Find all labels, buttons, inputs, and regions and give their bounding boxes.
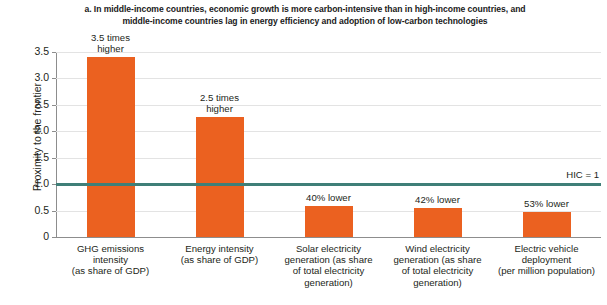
chart-title-line-2: middle-income countries lag in energy ef… <box>40 16 570 28</box>
y-axis-tick-label: 0.5 <box>34 204 49 216</box>
x-axis-category-label-line: generation (as share <box>271 254 387 265</box>
y-axis-tick-label: 0 <box>43 230 49 242</box>
bar[interactable] <box>87 57 135 237</box>
x-axis-category-label-line: (as share of GDP) <box>53 265 169 276</box>
x-axis-category-label-line: Energy intensity <box>162 243 278 254</box>
x-axis-category-label: Wind electricitygeneration (as shareof t… <box>380 243 496 288</box>
y-axis-tick-mark <box>52 158 56 159</box>
plot-area: 00.51.01.52.02.53.03.53.5 timeshigher2.5… <box>56 52 601 237</box>
x-axis-category-label-line: deployment <box>489 254 605 265</box>
bar[interactable] <box>523 212 571 237</box>
bar-value-annotation-line: 2.5 times <box>160 92 280 103</box>
gridline <box>56 131 601 132</box>
x-axis-category-label: GHG emissionsintensity(as share of GDP) <box>53 243 169 277</box>
x-axis-category-label-line: GHG emissions <box>53 243 169 254</box>
y-axis-tick-mark <box>52 237 56 238</box>
x-axis-category-label: Solar electricitygeneration (as shareof … <box>271 243 387 288</box>
y-axis-tick-label: 3.5 <box>34 45 49 57</box>
y-axis-tick-mark <box>52 78 56 79</box>
bar-value-annotation: 2.5 timeshigher <box>160 92 280 114</box>
y-axis-tick-mark <box>52 131 56 132</box>
x-axis-category-label-line: Solar electricity <box>271 243 387 254</box>
x-axis-category-label-line: generation) <box>271 277 387 288</box>
x-axis-category-label-line: (per million population) <box>489 265 605 276</box>
bar-value-annotation: 40% lower <box>269 192 389 203</box>
bar-value-annotation-line: higher <box>160 103 280 114</box>
x-axis-category-label-line: Wind electricity <box>380 243 496 254</box>
y-axis-tick-mark <box>52 211 56 212</box>
bar[interactable] <box>196 117 244 237</box>
bar-value-annotation: 3.5 timeshigher <box>51 32 171 54</box>
y-axis-tick-label: 2.5 <box>34 98 49 110</box>
gridline <box>56 105 601 106</box>
y-axis-tick-label: 3.0 <box>34 71 49 83</box>
gridline <box>56 78 601 79</box>
bar-value-annotation-line: 3.5 times <box>51 32 171 43</box>
x-axis-line <box>56 237 601 238</box>
reference-line-hic <box>56 183 601 186</box>
y-axis-tick-label: 1.0 <box>34 177 49 189</box>
x-axis-category-label: Electric vehicledeployment(per million p… <box>489 243 605 277</box>
bar[interactable] <box>414 208 462 237</box>
x-axis-category-label-line: generation (as share <box>380 254 496 265</box>
chart-figure: a. In middle-income countries, economic … <box>0 0 607 305</box>
x-axis-category-label-line: of total electricity <box>380 265 496 276</box>
x-axis-category-label-line: Electric vehicle <box>489 243 605 254</box>
x-axis-category-label-line: (as share of GDP) <box>162 254 278 265</box>
bar[interactable] <box>305 206 353 237</box>
y-axis-tick-label: 1.5 <box>34 151 49 163</box>
x-axis-category-label-line: intensity <box>53 254 169 265</box>
bar-value-annotation-line: 42% lower <box>378 194 498 205</box>
y-axis-tick-mark <box>52 105 56 106</box>
chart-title-line-1: a. In middle-income countries, economic … <box>40 4 570 16</box>
x-axis-category-label-line: of total electricity <box>271 265 387 276</box>
gridline <box>56 158 601 159</box>
bar-value-annotation: 42% lower <box>378 194 498 205</box>
bar-value-annotation-line: higher <box>51 43 171 54</box>
bar-value-annotation: 53% lower <box>487 198 607 209</box>
chart-title: a. In middle-income countries, economic … <box>40 4 570 27</box>
y-axis-tick-label: 2.0 <box>34 124 49 136</box>
bar-value-annotation-line: 40% lower <box>269 192 389 203</box>
reference-line-label: HIC = 1 <box>566 169 599 180</box>
x-axis-category-label-line: generation) <box>380 277 496 288</box>
x-axis-category-label: Energy intensity(as share of GDP) <box>162 243 278 265</box>
bar-value-annotation-line: 53% lower <box>487 198 607 209</box>
